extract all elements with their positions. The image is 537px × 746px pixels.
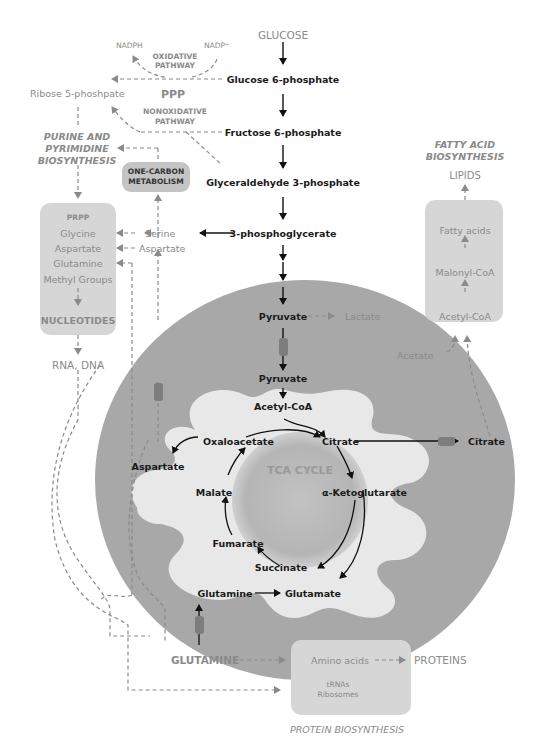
oxidative-label-1: OXIDATIVE bbox=[153, 52, 198, 61]
aspartate-transporter bbox=[154, 383, 163, 401]
rna-dna-label: RNA, DNA bbox=[52, 360, 104, 371]
nucleotide-item-methyl-groups: Methyl Groups bbox=[44, 274, 113, 285]
fatty-acids-item: Fatty acids bbox=[439, 225, 490, 236]
fatty-acid-section-1: FATTY ACID bbox=[435, 139, 496, 150]
ribose-5-phosphate: Ribose 5-phoshpate bbox=[30, 88, 125, 99]
purine-section-2: PYRIMIDINE bbox=[45, 143, 109, 154]
purine-section-1: PURINE AND bbox=[44, 131, 110, 142]
lipids-label: LIPIDS bbox=[449, 170, 481, 181]
nadph-label: NADPH bbox=[116, 41, 143, 50]
nucleotide-item-glycine: Glycine bbox=[60, 228, 95, 239]
glucose-label: GLUCOSE bbox=[258, 30, 308, 41]
ppp-label: PPP bbox=[161, 89, 185, 100]
glutamine-transporter bbox=[195, 616, 204, 634]
oxidative-label-2: PATHWAY bbox=[155, 61, 195, 70]
succinate: Succinate bbox=[255, 562, 307, 573]
one-carbon-label-2: METABOLISM bbox=[128, 177, 183, 186]
nonoxidative-label-2: PATHWAY bbox=[155, 117, 195, 126]
3-phosphoglycerate: 3-phosphoglycerate bbox=[230, 228, 337, 239]
citrate-transporter bbox=[438, 437, 455, 446]
acetyl-coa-mito: Acetyl-CoA bbox=[254, 401, 312, 412]
protein-box bbox=[291, 640, 411, 715]
nucleotide-item-prpp: PRPP bbox=[67, 213, 89, 222]
nucleotides-label: NUCLEOTIDES bbox=[41, 315, 116, 326]
protein-section-label: PROTEIN BIOSYNTHESIS bbox=[290, 724, 404, 735]
aspartate-mito: Aspartate bbox=[132, 461, 185, 472]
aspartate-cytosol-label: Aspartate bbox=[139, 243, 185, 254]
fructose-6-phosphate: Fructose 6-phosphate bbox=[225, 127, 342, 138]
glutamine-input-label: GLUTAMINE bbox=[171, 655, 239, 666]
fumarate: Fumarate bbox=[212, 538, 263, 549]
ribosomes-label: Ribosomes bbox=[318, 690, 359, 699]
lactate-label: Lactate bbox=[345, 311, 380, 322]
acetyl-coa-item: Acetyl-CoA bbox=[439, 311, 491, 322]
glutamine-mito: Glutamine bbox=[197, 588, 252, 599]
amino-acids-label: Amino acids bbox=[311, 655, 369, 666]
trnas-label: tRNAs bbox=[327, 680, 350, 689]
proteins-label: PROTEINS bbox=[414, 655, 467, 666]
fatty-acid-section-2: BIOSYNTHESIS bbox=[426, 151, 505, 162]
one-carbon-label-1: ONE-CARBON bbox=[128, 167, 184, 176]
nadp-label: NADP⁺ bbox=[204, 41, 229, 50]
citrate-mito: Citrate bbox=[322, 436, 359, 447]
malate: Malate bbox=[196, 487, 233, 498]
oxaloacetate: Oxaloacetate bbox=[203, 436, 274, 447]
purine-section-3: BIOSYNTHESIS bbox=[38, 155, 117, 166]
pyruvate-mito: Pyruvate bbox=[259, 373, 307, 384]
glucose-6-phosphate: Glucose 6-phosphate bbox=[227, 74, 340, 85]
metabolic-pathway-diagram: GLUCOSE Glucose 6-phosphate Fructose 6-p… bbox=[0, 0, 537, 746]
serine-label: Serine bbox=[145, 228, 175, 239]
pyruvate-transporter bbox=[279, 338, 288, 356]
nucleotide-item-aspartate: Aspartate bbox=[55, 243, 101, 254]
acetate-label: Acetate bbox=[397, 350, 434, 361]
glutamate: Glutamate bbox=[285, 588, 341, 599]
malonyl-coa-item: Malonyl-CoA bbox=[435, 267, 494, 278]
alpha-ketoglutarate: α-Ketoglutarate bbox=[322, 487, 407, 498]
nucleotide-item-glutamine: Glutamine bbox=[53, 258, 102, 269]
citrate-cytosol: Citrate bbox=[468, 436, 505, 447]
tca-cycle-label: TCA CYCLE bbox=[267, 465, 333, 476]
pyruvate-cytosol: Pyruvate bbox=[259, 311, 307, 322]
glyceraldehyde-3-phosphate: Glyceraldehyde 3-phosphate bbox=[206, 177, 360, 188]
nonoxidative-label-1: NONOXIDATIVE bbox=[143, 107, 207, 116]
fatty-acid-box bbox=[425, 200, 503, 322]
